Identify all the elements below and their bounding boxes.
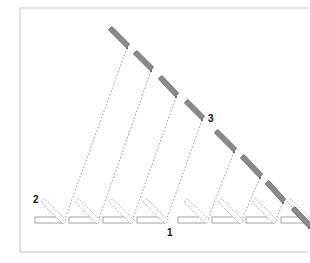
label-1: 1 (167, 227, 173, 238)
mirror-array-diagram: 1 2 3 (0, 0, 310, 263)
light-ray (97, 71, 151, 224)
diagonal-bar (265, 180, 286, 202)
light-ray (63, 48, 127, 224)
diagonal-bar (158, 75, 179, 96)
light-ray (131, 97, 176, 224)
diagonal-bar (240, 154, 263, 177)
label-3: 3 (208, 113, 214, 124)
bottom-reflector-units (35, 199, 310, 224)
label-2: 2 (33, 194, 39, 205)
diagonal-bars (108, 26, 310, 227)
reflector-unit (35, 199, 67, 224)
reflector-unit (246, 199, 278, 224)
reflector-unit (137, 199, 169, 224)
reflector-unit (178, 199, 210, 224)
diagonal-bar (184, 99, 205, 120)
reflector-unit (69, 199, 101, 224)
reflector-unit (103, 199, 135, 224)
reflector-unit (212, 199, 244, 224)
diagonal-bar (133, 50, 154, 71)
diagonal-bar (214, 129, 237, 152)
diagonal-bar (108, 26, 130, 48)
